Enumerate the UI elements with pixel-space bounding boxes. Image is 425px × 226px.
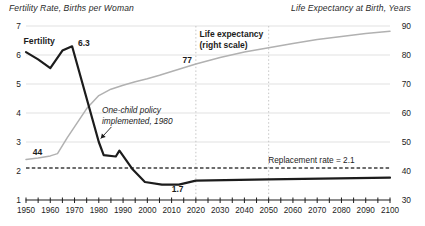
x-axis-label: 2030 [211, 206, 230, 215]
right-axis-label: 70 [402, 79, 412, 89]
right-axis-label: 40 [402, 166, 412, 176]
x-axis-label: 2000 [138, 206, 157, 215]
chart-figure: 1950196019701980199020002010202020302040… [0, 0, 425, 226]
left-axis-label: 5 [16, 79, 21, 89]
x-axis-label: 1950 [17, 206, 36, 215]
right-axis-title: Life Expectancy at Birth, Years [291, 3, 411, 13]
x-axis-label: 2080 [332, 206, 351, 215]
left-axis-label: 2 [16, 166, 21, 176]
one-child-policy-note: One-child policy [102, 105, 162, 115]
life-expectancy-2020-label: 77 [183, 55, 193, 65]
x-axis-label: 2040 [235, 206, 254, 215]
x-axis-label: 1960 [41, 206, 60, 215]
x-axis-label: 2010 [162, 206, 181, 215]
x-axis-label: 2060 [284, 206, 303, 215]
one-child-policy-note: implemented, 1980 [102, 116, 173, 126]
x-axis-label: 1990 [114, 206, 133, 215]
life-expectancy-line [26, 31, 390, 159]
right-axis-label: 60 [402, 108, 412, 118]
x-axis-label: 2090 [357, 206, 376, 215]
replacement-rate-label: Replacement rate = 2.1 [268, 155, 355, 165]
right-axis-label: 90 [402, 21, 412, 31]
life-expectancy-series-label: (right scale) [200, 40, 248, 50]
life-expectancy-series-label: Life expectancy [200, 29, 264, 39]
x-axis-label: 2100 [381, 206, 400, 215]
left-axis-label: 4 [16, 108, 21, 118]
fertility-series-label: Fertility [24, 36, 56, 46]
x-axis-label: 2050 [260, 206, 279, 215]
right-axis-label: 50 [402, 137, 412, 147]
left-axis-label: 3 [16, 137, 21, 147]
peak-value-label: 6.3 [78, 38, 90, 48]
chart-plot: 1950196019701980199020002010202020302040… [0, 0, 425, 226]
right-axis-label: 30 [402, 195, 412, 205]
left-axis-label: 6 [16, 50, 21, 60]
right-axis-label: 80 [402, 50, 412, 60]
left-axis-label: 1 [16, 195, 21, 205]
left-axis-label: 7 [16, 21, 21, 31]
x-axis-label: 2020 [187, 206, 206, 215]
fertility-recent-label: 1.7 [172, 184, 184, 194]
life-expectancy-1950-label: 44 [33, 147, 43, 157]
left-axis-title: Fertility Rate, Births per Woman [9, 3, 134, 13]
x-axis-label: 1980 [90, 206, 109, 215]
x-axis-label: 1970 [65, 206, 84, 215]
x-axis-label: 2070 [308, 206, 327, 215]
